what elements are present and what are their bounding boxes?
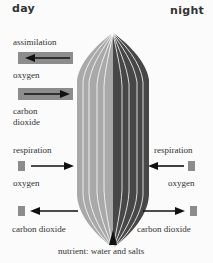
right-respiration-oxygen-label: oxygen xyxy=(168,178,195,188)
day-header: day xyxy=(12,2,35,15)
assimilation-co2-label-line1: carbon xyxy=(13,106,38,116)
leaf-day-half xyxy=(77,33,113,248)
right-respiration-co2-label: carbon dioxide xyxy=(137,224,191,234)
arrow-left-icon xyxy=(148,162,184,170)
left-respiration-label: respiration xyxy=(13,145,52,155)
arrow-right-icon xyxy=(143,207,185,215)
night-header: night xyxy=(170,4,204,17)
nutrient-label: nutrient: water and salts xyxy=(58,246,144,256)
assimilation-co2-label-line2: dioxide xyxy=(13,117,40,127)
left-respiration-oxygen-square xyxy=(18,161,25,171)
left-respiration-oxygen-label: oxygen xyxy=(13,178,40,188)
right-respiration-label: respiration xyxy=(154,145,193,155)
leaf-night-half xyxy=(113,33,149,248)
right-respiration-oxygen-square xyxy=(188,161,195,171)
arrow-right-icon xyxy=(31,162,74,170)
arrow-left-icon xyxy=(30,207,78,215)
left-respiration-co2-square xyxy=(18,206,25,216)
assimilation-label: assimilation xyxy=(13,37,57,47)
assimilation-oxygen-label: oxygen xyxy=(13,70,40,80)
left-respiration-co2-label: carbon dioxide xyxy=(12,224,66,234)
right-respiration-co2-square xyxy=(190,206,197,216)
